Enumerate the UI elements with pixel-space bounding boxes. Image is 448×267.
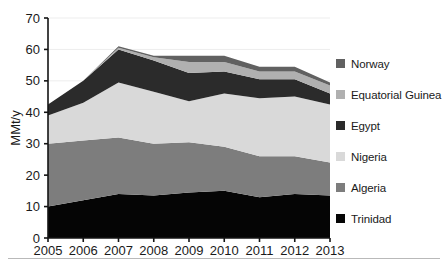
legend-label-egypt: Egypt [351,120,380,132]
x-tick-label: 2010 [210,243,239,258]
legend-swatch-algeria [336,183,345,192]
x-tick-label: 2013 [316,243,345,258]
x-tick-label: 2012 [280,243,309,258]
chart-legend: Norway Equatorial Guinea Egypt Nigeria A… [336,48,448,234]
x-tick-label: 2011 [246,243,274,258]
legend-label-norway: Norway [351,58,389,70]
y-tick-label: 20 [26,168,40,183]
y-tick-label: 10 [26,199,40,214]
stacked-area-chart: 010203040506070 200520062007200820092010… [0,0,448,267]
x-tick-label: 2006 [69,243,98,258]
legend-swatch-trinidad [336,214,345,223]
x-tick-label: 2005 [34,243,63,258]
legend-label-nigeria: Nigeria [351,151,387,163]
x-axis: 200520062007200820092010201120122013 [34,238,345,258]
y-tick-label: 40 [26,105,40,120]
legend-item-norway[interactable]: Norway [336,48,448,79]
legend-item-egypt[interactable]: Egypt [336,110,448,141]
y-tick-label: 50 [26,73,40,88]
y-tick-label: 70 [26,11,40,26]
legend-swatch-egypt [336,121,345,130]
x-tick-label: 2009 [175,243,204,258]
legend-item-trinidad[interactable]: Trinidad [336,203,448,234]
legend-label-algeria: Algeria [351,182,386,194]
legend-swatch-nigeria [336,152,345,161]
legend-item-equatorial-guinea[interactable]: Equatorial Guinea [336,79,448,110]
bottom-divider [8,258,440,259]
legend-swatch-equatorial-guinea [336,90,345,99]
legend-swatch-norway [336,59,345,68]
y-tick-label: 60 [26,42,40,57]
legend-item-algeria[interactable]: Algeria [336,172,448,203]
y-axis: 010203040506070 [26,11,48,246]
y-tick-label: 30 [26,136,40,151]
legend-item-nigeria[interactable]: Nigeria [336,141,448,172]
area-series-group [48,46,330,238]
legend-label-equatorial-guinea: Equatorial Guinea [351,89,441,101]
y-axis-label: MMt/y [8,110,23,146]
x-tick-label: 2007 [104,243,133,258]
legend-label-trinidad: Trinidad [351,213,391,225]
x-tick-label: 2008 [139,243,168,258]
